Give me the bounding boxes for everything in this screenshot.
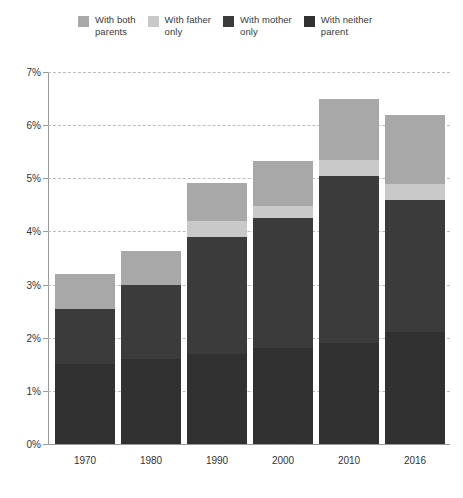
bar-segment-2000-0[interactable] xyxy=(253,348,313,444)
y-tick-mark-6% xyxy=(43,125,48,126)
bar-segment-2000-1[interactable] xyxy=(253,218,313,348)
bar-segment-1990-3[interactable] xyxy=(187,183,247,221)
legend-label-mother_only: With mother only xyxy=(240,14,292,37)
y-tick-mark-3% xyxy=(43,285,48,286)
bar-segment-1980-0[interactable] xyxy=(121,359,181,444)
y-tick-mark-0% xyxy=(43,444,48,445)
chart-legend: With both parentsWith father onlyWith mo… xyxy=(78,14,450,52)
legend-item-mother_only[interactable]: With mother only xyxy=(223,14,292,37)
bar-segment-1970-0[interactable] xyxy=(55,364,115,444)
legend-label-neither_parent: With neither parent xyxy=(321,14,372,37)
bar-2016[interactable] xyxy=(385,115,445,444)
legend-swatch-both_parents-icon xyxy=(78,16,89,27)
bar-segment-1990-2[interactable] xyxy=(187,221,247,237)
legend-label-father_only: With father only xyxy=(165,14,211,37)
y-tick-mark-1% xyxy=(43,391,48,392)
plot-area: 0%1%2%3%4%5%6%7% xyxy=(48,72,450,444)
y-tick-mark-2% xyxy=(43,338,48,339)
bar-1980[interactable] xyxy=(121,251,181,444)
y-tick-mark-7% xyxy=(43,72,48,73)
bar-segment-2016-2[interactable] xyxy=(385,184,445,200)
bar-segment-2010-3[interactable] xyxy=(319,99,379,160)
x-axis: 197019801990200020102016 xyxy=(48,446,450,468)
bar-segment-1970-1[interactable] xyxy=(55,309,115,365)
legend-swatch-mother_only-icon xyxy=(223,16,234,27)
bar-segment-1980-3[interactable] xyxy=(121,251,181,284)
legend-item-father_only[interactable]: With father only xyxy=(148,14,211,37)
bar-segment-2010-1[interactable] xyxy=(319,176,379,343)
legend-item-neither_parent[interactable]: With neither parent xyxy=(304,14,372,37)
gridline-7% xyxy=(48,72,450,73)
y-tick-mark-4% xyxy=(43,231,48,232)
x-tick-label-1980: 1980 xyxy=(140,455,162,466)
y-tick-mark-5% xyxy=(43,178,48,179)
bar-segment-1990-1[interactable] xyxy=(187,237,247,354)
bar-segment-1970-3[interactable] xyxy=(55,274,115,309)
bar-segment-2010-0[interactable] xyxy=(319,343,379,444)
x-tick-label-1970: 1970 xyxy=(74,455,96,466)
bar-1990[interactable] xyxy=(187,183,247,444)
bar-1970[interactable] xyxy=(55,274,115,444)
bar-2010[interactable] xyxy=(319,99,379,444)
x-tick-label-2000: 2000 xyxy=(272,455,294,466)
bar-segment-2016-1[interactable] xyxy=(385,200,445,333)
gridline-0% xyxy=(48,444,450,445)
legend-item-both_parents[interactable]: With both parents xyxy=(78,14,136,37)
bar-segment-1990-0[interactable] xyxy=(187,354,247,444)
bar-segment-2000-2[interactable] xyxy=(253,206,313,218)
x-tick-label-1990: 1990 xyxy=(206,455,228,466)
bar-segment-2010-2[interactable] xyxy=(319,160,379,176)
x-tick-label-2010: 2010 xyxy=(338,455,360,466)
bar-2000[interactable] xyxy=(253,161,313,444)
bar-segment-2016-3[interactable] xyxy=(385,115,445,184)
x-tick-label-2016: 2016 xyxy=(404,455,426,466)
legend-swatch-neither_parent-icon xyxy=(304,16,315,27)
bar-segment-1980-1[interactable] xyxy=(121,285,181,359)
bar-segment-2016-0[interactable] xyxy=(385,332,445,444)
legend-label-both_parents: With both parents xyxy=(95,14,136,37)
bar-segment-2000-3[interactable] xyxy=(253,161,313,206)
legend-swatch-father_only-icon xyxy=(148,16,159,27)
